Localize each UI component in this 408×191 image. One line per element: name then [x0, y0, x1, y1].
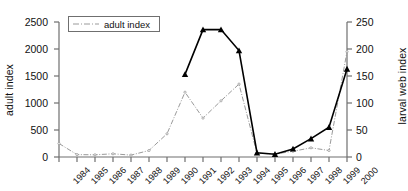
data-point [130, 154, 132, 156]
right-tick-50: 50 [356, 124, 390, 136]
right-axis-ticks [347, 22, 352, 157]
data-point [112, 153, 114, 155]
left-tick-1500: 1500 [14, 70, 48, 82]
data-point [202, 117, 204, 119]
left-tick-0: 0 [14, 151, 48, 163]
data-point [94, 154, 96, 156]
left-tick-2000: 2000 [14, 43, 48, 55]
left-tick-2500: 2500 [14, 16, 48, 28]
data-point [346, 51, 348, 53]
data-point [238, 83, 240, 85]
data-point [326, 124, 332, 130]
data-point [166, 133, 168, 135]
data-point [182, 71, 188, 77]
data-point [310, 147, 312, 149]
left-axis-ticks [54, 22, 59, 157]
right-tick-150: 150 [356, 70, 390, 82]
series-larval-web-index-markers [182, 26, 350, 157]
left-tick-500: 500 [14, 124, 48, 136]
right-tick-200: 200 [356, 43, 390, 55]
right-tick-250: 250 [356, 16, 390, 28]
data-point [148, 149, 150, 151]
data-point [290, 146, 296, 152]
right-tick-0: 0 [356, 151, 390, 163]
left-tick-1000: 1000 [14, 97, 48, 109]
data-point [58, 142, 60, 144]
series-adult-index-line [59, 52, 347, 155]
series-adult-index-markers [58, 51, 348, 157]
data-point [220, 100, 222, 102]
right-tick-100: 100 [356, 97, 390, 109]
x-axis-ticks [59, 157, 347, 162]
data-point [328, 149, 330, 151]
data-point [184, 91, 186, 93]
data-point [76, 154, 78, 156]
series-larval-web-index-line [185, 30, 347, 155]
